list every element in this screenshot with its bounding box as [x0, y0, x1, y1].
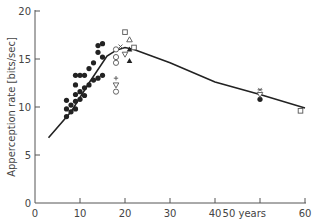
cross-marker	[119, 45, 123, 49]
filled-circle-marker	[64, 114, 69, 119]
x-tick-label: 30	[164, 208, 177, 219]
asterisk-marker	[258, 88, 263, 92]
x-tick-label: 20	[119, 208, 132, 219]
x-axis-ticks: 01020304050 years60	[32, 198, 312, 219]
filled-circle-marker	[73, 92, 78, 97]
filled-circle-marker	[86, 66, 91, 71]
filled-circle-marker	[100, 41, 105, 46]
filled-circle-marker	[95, 50, 100, 55]
filled-circle-marker	[73, 73, 78, 78]
filled-circle-marker	[95, 76, 100, 81]
open-square-marker	[123, 30, 128, 35]
x-tick-label: 10	[74, 208, 87, 219]
x-tick-label: 50 years	[223, 208, 266, 219]
open-triangle-down-marker	[113, 83, 119, 88]
filled-circle-marker	[86, 82, 91, 87]
filled-circle-marker	[82, 93, 87, 98]
open-circle-marker	[113, 54, 118, 59]
filled-circle-marker	[82, 73, 87, 78]
filled-circle-marker	[68, 109, 73, 114]
y-tick-label: 5	[25, 150, 31, 161]
open-circle-marker	[113, 89, 118, 94]
filled-circle-marker	[91, 60, 96, 65]
x-tick-label: 60	[299, 208, 312, 219]
y-tick-label: 15	[18, 54, 31, 65]
open-triangle-up-marker	[127, 37, 133, 42]
filled-triangle-up-marker	[127, 58, 133, 63]
filled-circle-marker	[91, 78, 96, 83]
filled-circle-marker	[77, 97, 82, 102]
x-tick-label: 40	[209, 208, 222, 219]
y-tick-label: 20	[18, 6, 31, 17]
y-tick-label: 10	[18, 102, 31, 113]
open-square-marker	[132, 45, 137, 50]
apperception-rate-chart: 05101520 01020304050 years60 Apperceptio…	[0, 0, 315, 221]
plus-marker	[114, 76, 118, 80]
filled-circle-marker	[95, 43, 100, 48]
y-tick-label: 0	[25, 198, 31, 209]
filled-circle-marker	[82, 85, 87, 90]
filled-circle-marker	[73, 82, 78, 87]
open-circle-marker	[113, 60, 118, 65]
x-tick-label: 0	[32, 208, 38, 219]
filled-circle-marker	[68, 102, 73, 107]
filled-circle-marker	[100, 54, 105, 59]
filled-circle-marker	[100, 73, 105, 78]
filled-circle-marker	[64, 98, 69, 103]
filled-circle-marker	[77, 73, 82, 78]
y-axis-ticks: 05101520	[18, 6, 40, 209]
filled-circle-marker	[73, 106, 78, 111]
filled-circle-marker	[64, 106, 69, 111]
open-square-marker	[298, 109, 303, 114]
data-markers	[64, 30, 303, 119]
trend-curve	[49, 47, 306, 137]
filled-circle-marker	[77, 89, 82, 94]
filled-circle-marker	[73, 99, 78, 104]
open-circle-marker	[113, 47, 118, 52]
y-axis-title: Apperception rate [bits/sec]	[6, 37, 17, 177]
open-triangle-down-marker	[122, 52, 128, 57]
